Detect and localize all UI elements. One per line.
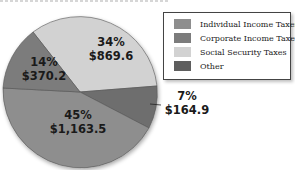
legend-swatch-other	[174, 61, 191, 71]
label-social-security-percent: 34%	[83, 35, 139, 49]
legend-item-corporate: Corporate Income Taxes	[174, 32, 295, 44]
label-corporate-percent: 14%	[17, 55, 71, 69]
legend-swatch-corporate	[174, 33, 191, 43]
legend-label-individual: Individual Income Taxes	[200, 20, 295, 29]
legend-label-social-security: Social Security Taxes	[200, 48, 287, 57]
chart-legend: Individual Income Taxes Corporate Income…	[163, 12, 291, 80]
legend-item-individual: Individual Income Taxes	[174, 18, 295, 30]
label-social-security: 34% $869.6	[83, 35, 139, 63]
label-individual-amount: $1,163.5	[46, 122, 110, 136]
label-individual: 45% $1,163.5	[46, 108, 110, 136]
label-corporate-amount: $370.2	[17, 69, 71, 83]
legend-swatch-individual	[174, 19, 191, 29]
legend-item-other: Other	[174, 60, 223, 72]
label-social-security-amount: $869.6	[83, 49, 139, 63]
label-other-amount: $164.9	[163, 103, 211, 117]
legend-label-corporate: Corporate Income Taxes	[200, 34, 295, 43]
label-other: 7% $164.9	[163, 89, 211, 117]
pie-chart	[0, 0, 170, 170]
label-individual-percent: 45%	[46, 108, 110, 122]
legend-item-social-security: Social Security Taxes	[174, 46, 287, 58]
label-corporate: 14% $370.2	[17, 55, 71, 83]
label-other-percent: 7%	[163, 89, 211, 103]
legend-label-other: Other	[200, 62, 223, 71]
legend-swatch-social-security	[174, 47, 191, 57]
